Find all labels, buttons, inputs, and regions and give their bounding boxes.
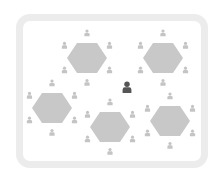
seat-person-icon <box>27 117 32 124</box>
seat-person-icon <box>167 93 172 100</box>
seat-person-icon <box>72 92 77 99</box>
hexagon-table <box>143 43 183 73</box>
seat-person-icon <box>84 79 89 86</box>
seat-person-icon <box>138 42 143 49</box>
seat-person-icon <box>27 92 32 99</box>
seat-person-icon <box>62 67 67 74</box>
seat-person-icon <box>138 67 143 74</box>
hexagon-table <box>67 43 107 73</box>
seat-person-icon <box>160 79 165 86</box>
seat-person-icon <box>85 111 90 118</box>
seat-person-icon <box>167 142 172 149</box>
seat-person-icon <box>62 42 67 49</box>
seat-person-icon <box>84 30 89 37</box>
seat-person-icon <box>130 136 135 143</box>
hexagon-table <box>90 112 130 142</box>
seat-person-icon <box>85 136 90 143</box>
seat-person-icon <box>107 99 112 106</box>
seat-person-icon <box>145 130 150 137</box>
seat-person-icon <box>107 67 112 74</box>
seat-person-icon <box>49 80 54 87</box>
seating-diagram <box>0 0 221 179</box>
focus-person-icon <box>123 82 132 94</box>
seat-person-icon <box>145 105 150 112</box>
hexagon-table <box>32 93 72 123</box>
seat-person-icon <box>130 111 135 118</box>
seat-person-icon <box>72 117 77 124</box>
seat-person-icon <box>190 130 195 137</box>
seat-person-icon <box>190 105 195 112</box>
seat-person-icon <box>107 148 112 155</box>
seat-person-icon <box>107 42 112 49</box>
seat-person-icon <box>183 67 188 74</box>
seat-person-icon <box>160 30 165 37</box>
seat-person-icon <box>183 42 188 49</box>
hexagon-table <box>150 106 190 136</box>
seat-person-icon <box>49 129 54 136</box>
